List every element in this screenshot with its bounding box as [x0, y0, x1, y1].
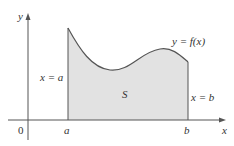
region-s	[68, 28, 188, 120]
tick-label-b: b	[184, 124, 190, 136]
left-bound-label: x = a	[39, 71, 64, 83]
right-bound-label: x = b	[190, 91, 215, 103]
y-axis-arrow-icon	[26, 13, 31, 20]
x-axis-arrow-icon	[219, 118, 226, 123]
region-label: S	[122, 88, 128, 100]
area-under-curve-diagram: y x 0 a b y = f(x) S x = a x = b	[0, 0, 234, 146]
origin-label: 0	[18, 124, 24, 136]
curve-label: y = f(x)	[171, 35, 205, 48]
x-axis-label: x	[221, 124, 227, 136]
tick-label-a: a	[64, 124, 70, 136]
y-axis-label: y	[17, 10, 23, 22]
